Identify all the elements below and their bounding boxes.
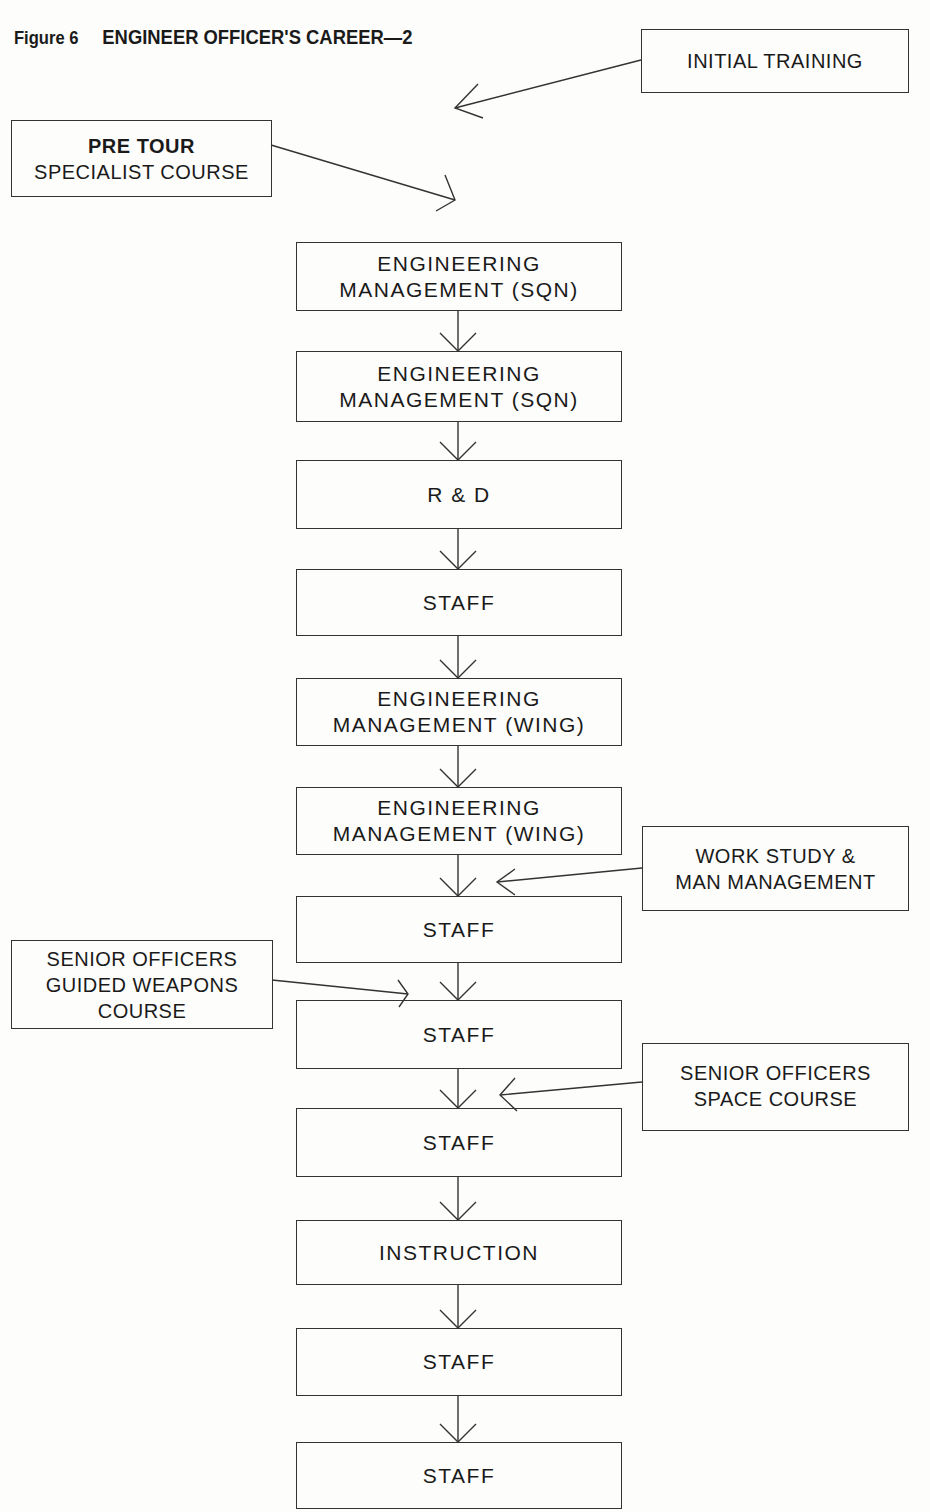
guided-weapons-line2: GUIDED WEAPONS [46, 972, 239, 998]
step-line: ENGINEERING [377, 361, 541, 387]
work-study-line1: WORK STUDY & [695, 843, 855, 869]
space-course-line1: SENIOR OFFICERS [680, 1060, 871, 1086]
step-line: ENGINEERING [377, 686, 541, 712]
career-step-1: ENGINEERING MANAGEMENT (SQN) [296, 242, 622, 311]
step-line: STAFF [423, 1022, 495, 1048]
career-step-8: STAFF [296, 1000, 622, 1069]
step-line: STAFF [423, 1463, 495, 1489]
career-step-5: ENGINEERING MANAGEMENT (WING) [296, 678, 622, 746]
work-study-line2: MAN MANAGEMENT [675, 869, 875, 895]
step-line: STAFF [423, 1130, 495, 1156]
step-line: ENGINEERING [377, 795, 541, 821]
guided-weapons-line1: SENIOR OFFICERS [47, 946, 238, 972]
step-line: MANAGEMENT (WING) [333, 821, 586, 847]
space-course-line2: SPACE COURSE [694, 1086, 857, 1112]
career-step-10: INSTRUCTION [296, 1220, 622, 1285]
step-line: STAFF [423, 590, 495, 616]
pre-tour-label: PRE TOUR [88, 133, 195, 159]
guided-weapons-course-box: SENIOR OFFICERS GUIDED WEAPONS COURSE [11, 940, 273, 1029]
guided-weapons-line3: COURSE [98, 998, 187, 1024]
step-line: STAFF [423, 917, 495, 943]
career-step-6: ENGINEERING MANAGEMENT (WING) [296, 787, 622, 855]
career-step-9: STAFF [296, 1108, 622, 1177]
step-line: MANAGEMENT (SQN) [339, 277, 578, 303]
step-line: R & D [427, 482, 491, 508]
step-line: MANAGEMENT (WING) [333, 712, 586, 738]
initial-training-box: INITIAL TRAINING [641, 29, 909, 93]
career-step-12: STAFF [296, 1442, 622, 1509]
step-line: STAFF [423, 1349, 495, 1375]
step-line: MANAGEMENT (SQN) [339, 387, 578, 413]
career-step-2: ENGINEERING MANAGEMENT (SQN) [296, 351, 622, 422]
career-step-11: STAFF [296, 1328, 622, 1396]
step-line: ENGINEERING [377, 251, 541, 277]
connector-arrows [0, 0, 930, 1512]
career-step-7: STAFF [296, 896, 622, 963]
initial-training-label: INITIAL TRAINING [687, 48, 863, 74]
specialist-course-label: SPECIALIST COURSE [34, 159, 249, 185]
work-study-box: WORK STUDY & MAN MANAGEMENT [642, 826, 909, 911]
space-course-box: SENIOR OFFICERS SPACE COURSE [642, 1043, 909, 1131]
step-line: INSTRUCTION [379, 1240, 539, 1266]
career-step-4: STAFF [296, 569, 622, 636]
pre-tour-specialist-course-box: PRE TOUR SPECIALIST COURSE [11, 120, 272, 197]
career-step-3: R & D [296, 460, 622, 529]
